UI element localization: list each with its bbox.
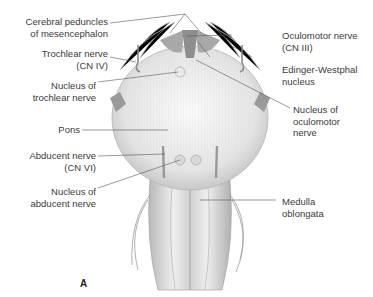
label-nucleus-oculomotor: Nucleus of oculomotor nerve (293, 104, 340, 139)
label-edinger-westphal: Edinger-Westphal nucleus (282, 64, 357, 87)
panel-letter: A (80, 278, 87, 289)
label-nucleus-trochlear: Nucleus of trochlear nerve (8, 80, 96, 103)
label-trochlear-nerve: Trochlear nerve (CN IV) (8, 48, 108, 71)
label-cerebral-peduncles: Cerebral peduncles of mesencephalon (8, 16, 108, 39)
label-pons: Pons (8, 124, 80, 136)
label-oculomotor-nerve: Oculomotor nerve (CN III) (282, 30, 358, 53)
label-abducent-nerve: Abducent nerve (CN VI) (8, 150, 96, 173)
label-medulla: Medulla oblongata (282, 196, 324, 219)
label-nucleus-abducent: Nucleus of abducent nerve (8, 186, 96, 209)
